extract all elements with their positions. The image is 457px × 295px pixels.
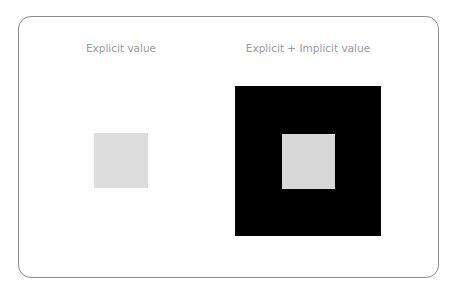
explicit-value-square	[94, 133, 148, 188]
explicit-value-square-inner	[282, 134, 335, 189]
explicit-implicit-value-label: Explicit + Implicit value	[246, 42, 370, 54]
explicit-value-label: Explicit value	[86, 42, 156, 54]
